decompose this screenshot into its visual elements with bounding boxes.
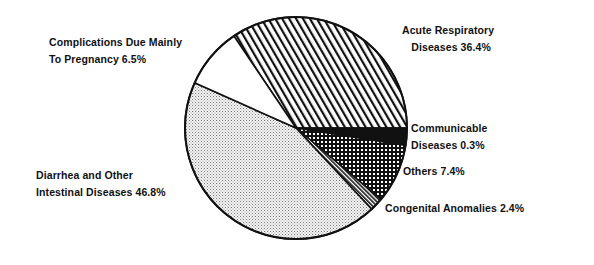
label-line: To Pregnancy 6.5% (49, 51, 182, 68)
label-line: Acute Respiratory (402, 22, 494, 39)
label-diarrhea: Diarrhea and Other Intestinal Diseases 4… (36, 167, 166, 201)
label-line: Others 7.4% (403, 165, 465, 177)
label-others: Others 7.4% (403, 163, 465, 180)
label-communicable: Communicable Diseases 0.3% (411, 120, 487, 154)
label-pregnancy: Complications Due Mainly To Pregnancy 6.… (49, 34, 182, 68)
label-acute-respiratory: Acute Respiratory Diseases 36.4% (402, 22, 494, 56)
label-line: Congenital Anomalies 2.4% (385, 202, 524, 214)
label-line: Diseases 0.3% (411, 137, 487, 154)
label-line: Complications Due Mainly (49, 34, 182, 51)
label-line: Communicable (411, 120, 487, 137)
label-line: Diseases 36.4% (408, 39, 494, 56)
label-congenital: Congenital Anomalies 2.4% (385, 200, 524, 217)
label-line: Diarrhea and Other (36, 167, 166, 184)
label-line: Intestinal Diseases 46.8% (36, 184, 166, 201)
